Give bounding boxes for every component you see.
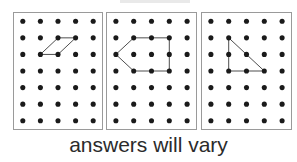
peg-dot [208,52,213,57]
peg-dot [131,35,136,40]
peg-dot [20,102,25,107]
peg-dot [185,118,190,123]
peg-dot [149,52,154,57]
peg-dot [280,85,285,90]
peg-dot [131,85,136,90]
peg-dot [149,118,154,123]
peg-dot [185,19,190,24]
peg-dot [20,52,25,57]
peg-dot [262,35,267,40]
peg-dot [55,35,60,40]
peg-dot [149,68,154,73]
peg-dot [226,68,231,73]
peg-dot [244,35,249,40]
peg-dot [55,19,60,24]
peg-dot [113,52,118,57]
peg-dot [167,68,172,73]
peg-dot [244,19,249,24]
geoboard-panel-1[interactable] [13,12,103,130]
peg-dot [185,68,190,73]
peg-dot [113,102,118,107]
peg-dot [208,19,213,24]
peg-dot [91,52,96,57]
peg-dot [131,102,136,107]
geoboard-panel-3[interactable] [201,12,292,130]
peg-dot [131,52,136,57]
peg-dot [226,35,231,40]
peg-dot [73,19,78,24]
geoboard-panel-row [0,12,297,130]
peg-dot [167,102,172,107]
peg-dot [244,118,249,123]
scan-artifact [120,0,190,3]
peg-dot [55,102,60,107]
peg-dot [208,85,213,90]
peg-dot [38,85,43,90]
peg-dot [73,68,78,73]
peg-dot [262,85,267,90]
peg-dot [226,118,231,123]
peg-dot [280,19,285,24]
peg-dot [55,85,60,90]
peg-dot [113,68,118,73]
geoboard-svg-1 [14,13,102,129]
peg-dot [149,102,154,107]
peg-dot [280,68,285,73]
peg-dot [91,35,96,40]
peg-dot [244,102,249,107]
peg-dot [167,118,172,123]
geoboard-svg-2 [107,13,196,129]
peg-dot [262,102,267,107]
peg-dot [208,68,213,73]
peg-dot [91,118,96,123]
peg-dot [149,85,154,90]
peg-dot [226,85,231,90]
peg-dot [91,68,96,73]
peg-dot [244,85,249,90]
peg-dot [131,19,136,24]
peg-dot [38,19,43,24]
peg-dot [73,35,78,40]
peg-dot [131,68,136,73]
peg-dot [38,35,43,40]
peg-dot [185,85,190,90]
peg-dot [244,52,249,57]
geoboard-panel-2[interactable] [106,12,197,130]
peg-dot [185,52,190,57]
peg-dot [73,85,78,90]
peg-dot [38,68,43,73]
peg-dot [226,52,231,57]
geoboard-worksheet: answers will vary [0,0,297,162]
peg-dot [262,19,267,24]
shape-left-pointing-arrow-pentagon [116,38,169,71]
peg-dot [55,68,60,73]
peg-dot [113,35,118,40]
peg-dot [131,118,136,123]
peg-dot [38,102,43,107]
peg-dot [167,52,172,57]
peg-dot [280,52,285,57]
peg-dot [167,35,172,40]
peg-dot [91,19,96,24]
peg-dot [91,102,96,107]
peg-dot [226,19,231,24]
peg-dot [167,85,172,90]
peg-dot [280,102,285,107]
peg-dot [20,19,25,24]
peg-dot [185,35,190,40]
peg-dot [113,85,118,90]
peg-dot [38,52,43,57]
peg-dot [91,85,96,90]
peg-dot [55,52,60,57]
peg-dot [55,118,60,123]
peg-dot [73,102,78,107]
peg-dot [262,118,267,123]
peg-dot [149,19,154,24]
peg-dot [73,118,78,123]
peg-dot [185,102,190,107]
caption-answers-will-vary: answers will vary [0,132,297,158]
peg-dot [280,35,285,40]
peg-dot [73,52,78,57]
peg-dot [208,102,213,107]
peg-dot [113,19,118,24]
